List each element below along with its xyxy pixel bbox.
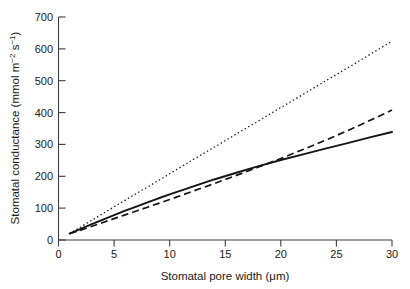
y-tick-label-0: 0 xyxy=(47,234,53,246)
x-tick-label-5: 5 xyxy=(111,248,117,260)
x-tick-labels: 0 5 10 15 20 25 30 xyxy=(55,248,398,260)
y-tick-labels: 700 600 500 400 300 200 100 0 xyxy=(35,11,53,246)
series-dotted-model xyxy=(70,41,392,233)
x-tick-label-10: 10 xyxy=(164,248,176,260)
series-solid-model xyxy=(70,132,392,234)
y-axis-title: Stomatal conductance (mmol m−2 s−1) xyxy=(8,31,21,224)
x-tick-label-30: 30 xyxy=(386,248,398,260)
y-tick-label-100: 100 xyxy=(35,202,53,214)
x-tick-label-25: 25 xyxy=(330,248,342,260)
y-tick-label-400: 400 xyxy=(35,107,53,119)
y-tick-label-500: 500 xyxy=(35,75,53,87)
x-tick-label-20: 20 xyxy=(275,248,287,260)
data-series-group xyxy=(70,41,392,233)
y-tick-label-200: 200 xyxy=(35,170,53,182)
x-axis-ticks xyxy=(59,240,393,247)
series-dashed-model xyxy=(70,110,392,234)
y-axis-ticks xyxy=(59,17,66,240)
y-tick-label-700: 700 xyxy=(35,11,53,23)
y-tick-label-600: 600 xyxy=(35,43,53,55)
chart-canvas: 700 600 500 400 300 200 100 0 0 5 10 15 … xyxy=(0,0,410,289)
chart-figure: 700 600 500 400 300 200 100 0 0 5 10 15 … xyxy=(0,0,410,289)
y-tick-label-300: 300 xyxy=(35,138,53,150)
x-tick-label-15: 15 xyxy=(219,248,231,260)
x-axis-title: Stomatal pore width (μm) xyxy=(161,270,290,282)
x-tick-label-0: 0 xyxy=(55,248,61,260)
